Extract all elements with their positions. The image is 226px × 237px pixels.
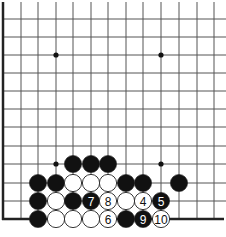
white-stone-icon xyxy=(64,174,81,191)
black-stone xyxy=(64,155,81,172)
white-stone-move-8: 8 xyxy=(99,192,116,209)
move-number-label: 5 xyxy=(158,195,165,209)
move-number-label: 8 xyxy=(105,195,112,209)
white-stone-icon xyxy=(64,210,81,227)
white-stone xyxy=(47,192,64,209)
black-stone-icon xyxy=(29,192,46,209)
black-stone xyxy=(134,174,151,191)
white-stone-move-6: 6 xyxy=(99,210,116,227)
black-stone xyxy=(29,174,46,191)
move-number-label: 4 xyxy=(140,195,147,209)
black-stone-icon xyxy=(29,210,46,227)
white-stone xyxy=(47,210,64,227)
white-stone-icon xyxy=(82,210,99,227)
move-number-label: 7 xyxy=(88,195,95,209)
black-stone-icon xyxy=(47,174,64,191)
white-stone xyxy=(64,174,81,191)
black-stone-icon xyxy=(134,174,151,191)
black-stone-icon xyxy=(82,155,99,172)
black-stone xyxy=(117,210,134,227)
black-stone-move-7: 7 xyxy=(82,192,99,209)
white-stone-icon xyxy=(117,192,134,209)
black-stone-icon xyxy=(29,174,46,191)
stones: 78456910 xyxy=(29,155,187,227)
black-stone-icon xyxy=(99,155,116,172)
move-number-label: 6 xyxy=(105,213,112,227)
white-stone-icon xyxy=(47,210,64,227)
white-stone-icon xyxy=(82,174,99,191)
white-stone-move-10: 10 xyxy=(152,210,169,227)
black-stone-move-9: 9 xyxy=(134,210,151,227)
star-point-icon xyxy=(53,161,58,166)
black-stone-icon xyxy=(64,155,81,172)
move-number-label: 10 xyxy=(154,213,168,227)
white-stone-icon xyxy=(47,192,64,209)
white-stone xyxy=(64,210,81,227)
go-board: 78456910 xyxy=(0,0,226,237)
black-stone xyxy=(170,174,187,191)
star-point-icon xyxy=(158,52,163,57)
white-stone xyxy=(82,174,99,191)
white-stone-move-4: 4 xyxy=(134,192,151,209)
black-stone-icon xyxy=(117,210,134,227)
white-stone xyxy=(117,192,134,209)
black-stone-icon xyxy=(64,192,81,209)
star-point-icon xyxy=(53,52,58,57)
star-point-icon xyxy=(158,161,163,166)
black-stone xyxy=(29,210,46,227)
black-stone xyxy=(47,174,64,191)
black-stone xyxy=(99,155,116,172)
black-stone-move-5: 5 xyxy=(152,192,169,209)
black-stone xyxy=(117,174,134,191)
black-stone xyxy=(64,192,81,209)
black-stone xyxy=(29,192,46,209)
white-stone xyxy=(82,210,99,227)
white-stone xyxy=(99,174,116,191)
black-stone-icon xyxy=(170,174,187,191)
black-stone-icon xyxy=(117,174,134,191)
white-stone-icon xyxy=(99,174,116,191)
move-number-label: 9 xyxy=(140,213,147,227)
black-stone xyxy=(82,155,99,172)
